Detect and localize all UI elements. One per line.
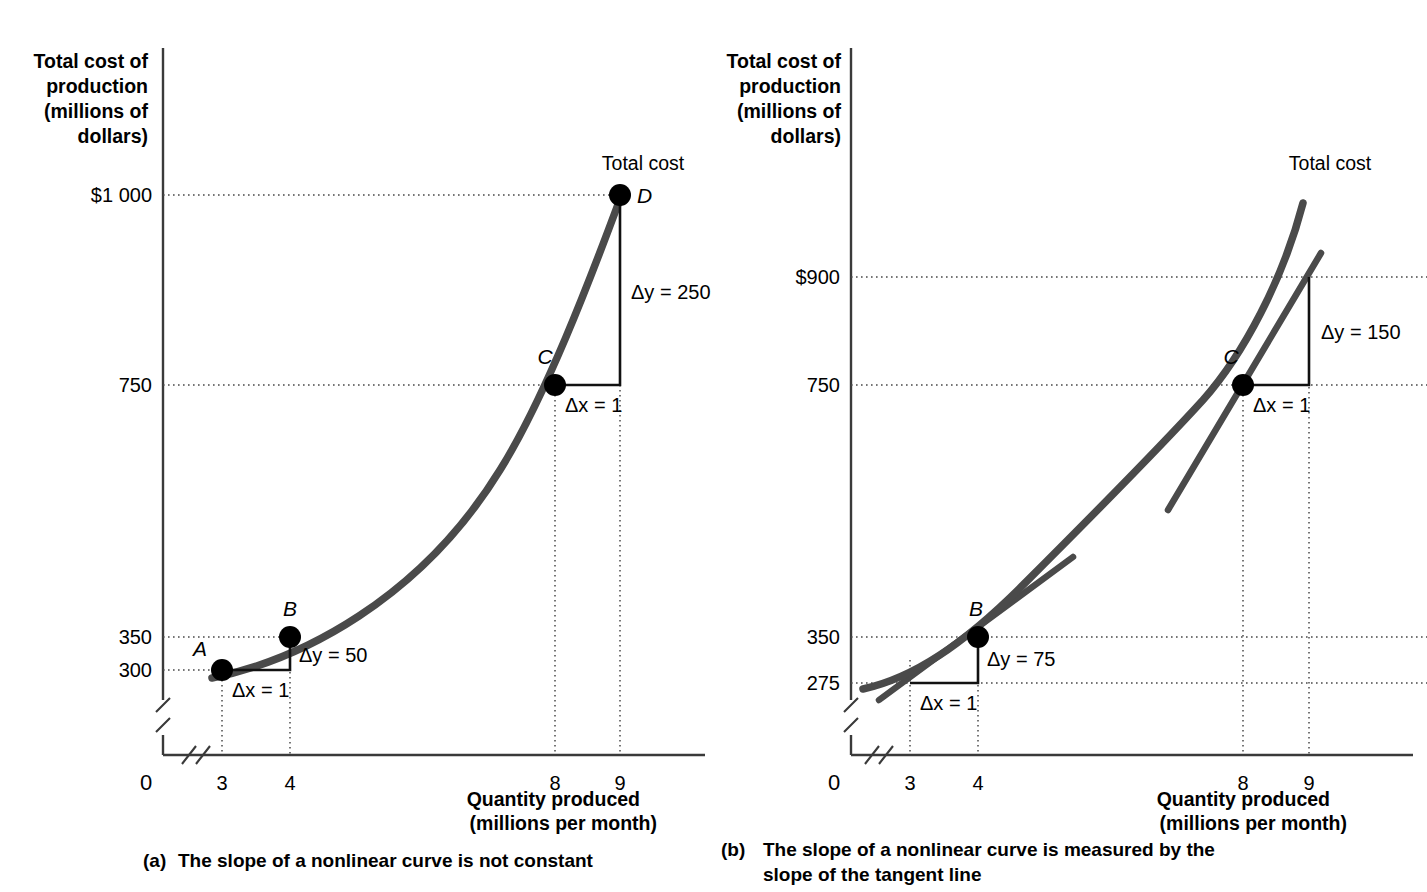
panel-b-x-axis-title-line-2: (millions per month) (1160, 812, 1347, 834)
panel-a-total-cost-curve (212, 199, 620, 678)
panel-b-point-b (967, 626, 989, 648)
panel-a-point-a (211, 659, 233, 681)
panel-a-ytick-label-2: 350 (119, 626, 152, 648)
panel-a-point-d (609, 184, 631, 206)
panel-a-ytick-label-1: 750 (119, 374, 152, 396)
panel-a-y-axis-title-line-2: production (46, 75, 148, 97)
panel-a-point-b-label: B (283, 597, 297, 620)
panel-b-caption-prefix: (b) (721, 839, 745, 860)
panel-b-ytick-label-1: 750 (807, 374, 840, 396)
panel-a-plot: Total cost of production (millions of do… (0, 0, 713, 892)
panel-a-y-axis-title-line-4: dollars) (78, 125, 148, 147)
panel-b-total-cost-curve (863, 203, 1303, 689)
panel-a-xtick-label-0: 3 (216, 772, 227, 794)
panel-a-dx-label-cd: Δx = 1 (565, 394, 622, 416)
panel-a-dx-label-ab: Δx = 1 (232, 679, 289, 701)
panel-b-ytick-label-0: $900 (796, 266, 841, 288)
panel-a-y-axis-title-line-3: (millions of (44, 100, 149, 122)
panel-b-ytick-label-2: 350 (807, 626, 840, 648)
panel-b-point-c (1232, 374, 1254, 396)
panel-b-ytick-label-3: 275 (807, 672, 840, 694)
panel-b-dy-label-c: Δy = 150 (1321, 321, 1401, 343)
panel-a-origin-label: 0 (140, 770, 152, 795)
panel-b-caption-text-line-1: The slope of a nonlinear curve is measur… (763, 839, 1215, 860)
panel-b-y-axis-title-line-4: dollars) (771, 125, 841, 147)
panel-b-point-c-label: C (1223, 345, 1239, 368)
panel-a-y-axis-title-line-1: Total cost of (34, 50, 149, 72)
panel-a-caption-text: The slope of a nonlinear curve is not co… (178, 850, 594, 871)
panel-a-ytick-label-0: $1 000 (91, 184, 152, 206)
panel-a-caption-prefix: (a) (143, 850, 166, 871)
panel-a: Total cost of production (millions of do… (0, 0, 713, 892)
panel-a-point-a-label: A (191, 637, 207, 660)
panel-a-dy-label-cd: Δy = 250 (631, 281, 711, 303)
panel-b-xtick-label-0: 3 (904, 772, 915, 794)
panel-b-point-b-label: B (969, 597, 983, 620)
panel-b-y-axis-title-line-2: production (739, 75, 841, 97)
panel-b-x-axis-title-line-1: Quantity produced (1157, 788, 1330, 810)
panel-b-plot: Total cost of production (millions of do… (713, 0, 1426, 892)
panel-a-point-b (279, 626, 301, 648)
panel-a-dy-label-ab: Δy = 50 (299, 644, 367, 666)
panel-a-x-axis-title-line-1: Quantity produced (467, 788, 640, 810)
panel-b-origin-label: 0 (828, 770, 840, 795)
panel-b-slope-triangle-b (910, 637, 978, 683)
panel-b-dx-label-c: Δx = 1 (1253, 394, 1310, 416)
panel-a-xtick-label-1: 4 (284, 772, 295, 794)
panel-a-point-c (544, 374, 566, 396)
panel-b-xtick-label-1: 4 (972, 772, 983, 794)
panel-b-y-axis-break (844, 698, 858, 732)
nonlinear-slope-figure: Total cost of production (millions of do… (0, 0, 1427, 892)
panel-a-curve-label: Total cost (602, 152, 685, 174)
panel-a-x-axis-title-line-2: (millions per month) (470, 812, 657, 834)
panel-a-point-d-label: D (637, 184, 652, 207)
panel-b-dx-label-b: Δx = 1 (920, 692, 977, 714)
panel-a-point-c-label: C (537, 345, 553, 368)
panel-b: Total cost of production (millions of do… (713, 0, 1426, 892)
panel-b-caption-text-line-2: slope of the tangent line (763, 864, 982, 885)
panel-a-ytick-label-3: 300 (119, 659, 152, 681)
panel-b-y-axis-title-line-3: (millions of (737, 100, 842, 122)
panel-b-dy-label-b: Δy = 75 (987, 648, 1055, 670)
panel-b-curve-label: Total cost (1289, 152, 1372, 174)
panel-a-y-axis-break (156, 698, 170, 732)
panel-b-y-axis-title-line-1: Total cost of (727, 50, 842, 72)
